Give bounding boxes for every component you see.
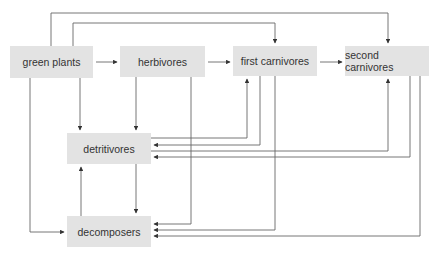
edge-first-carnivores-to-decomposers	[154, 76, 275, 230]
node-green-plants: green plants	[10, 46, 93, 78]
edge-green-plants-to-first-carnivores	[73, 23, 275, 46]
edge-detritivores-to-first-carnivores	[151, 79, 247, 138]
edge-green-plants-to-decomposers	[30, 78, 64, 232]
edge-herbivores-to-decomposers	[154, 77, 191, 224]
edge-first-carnivores-to-detritivores	[154, 76, 260, 145]
node-decomposers: decomposers	[67, 216, 151, 247]
food-web-edges	[0, 0, 436, 253]
edge-detritivores-to-second-carnivores	[151, 79, 388, 151]
edge-second-carnivores-to-decomposers	[154, 76, 420, 236]
node-first-carnivores: first carnivores	[233, 46, 317, 76]
node-detritivores: detritivores	[67, 133, 151, 164]
node-second-carnivores: second carnivores	[345, 46, 429, 76]
edge-green-plants-to-second-carnivores	[51, 13, 388, 46]
node-herbivores: herbivores	[120, 46, 205, 77]
